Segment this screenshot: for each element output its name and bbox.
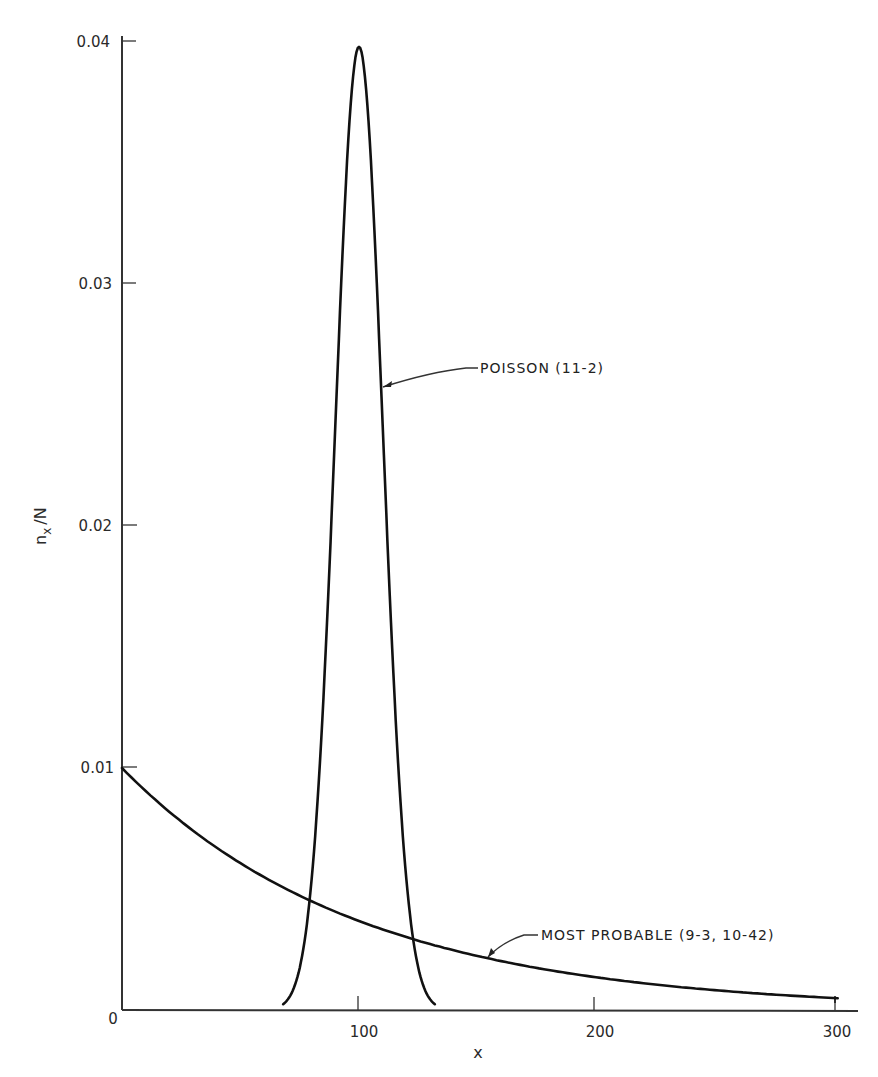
most-probable-leader-line (488, 935, 538, 957)
poisson-leader-line (383, 368, 478, 387)
most-probable-arrow-icon (488, 948, 495, 957)
y-tick-label-0.04: 0.04 (77, 33, 110, 51)
chart-canvas: 0.04 0.03 0.02 0.01 0 100 200 300 x nx/N… (0, 0, 878, 1077)
svg-text:nx/N: nx/N (31, 507, 54, 545)
x-axis (122, 1010, 858, 1011)
y-axis-label: nx/N (31, 507, 54, 545)
poisson-label: POISSON (11-2) (480, 360, 604, 376)
poisson-curve (283, 47, 435, 1004)
y-tick-label-0.01: 0.01 (81, 759, 114, 777)
most-probable-label: MOST PROBABLE (9-3, 10-42) (541, 927, 774, 943)
origin-label: 0 (108, 1010, 118, 1028)
y-tick-label-0.02: 0.02 (79, 517, 112, 535)
x-tick-label-300: 300 (823, 1023, 852, 1041)
poisson-arrow-icon (383, 381, 392, 387)
y-ticks (122, 41, 137, 767)
most-probable-curve (122, 768, 838, 998)
x-tick-label-100: 100 (350, 1023, 379, 1041)
x-tick-label-200: 200 (586, 1023, 615, 1041)
y-tick-label-0.03: 0.03 (79, 275, 112, 293)
x-axis-label: x (473, 1043, 482, 1062)
